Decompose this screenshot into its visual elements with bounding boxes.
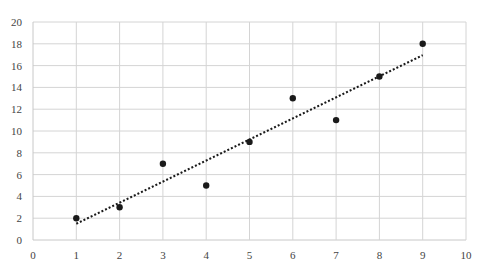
data-point	[203, 182, 209, 188]
y-tick-label: 20	[11, 16, 23, 28]
data-point	[246, 139, 252, 145]
x-tick-label: 7	[333, 249, 339, 261]
data-point	[73, 215, 79, 221]
data-point	[290, 95, 296, 101]
data-point	[376, 73, 382, 79]
y-tick-label: 16	[11, 60, 23, 72]
data-point	[160, 161, 166, 167]
data-point	[333, 117, 339, 123]
y-tick-label: 2	[17, 212, 23, 224]
x-tick-label: 2	[117, 249, 123, 261]
x-tick-label: 8	[377, 249, 383, 261]
y-axis-ticks: 02468101214161820	[11, 16, 23, 246]
scatter-chart: 02468101214161820 012345678910	[0, 0, 482, 273]
x-tick-label: 3	[160, 249, 166, 261]
x-tick-label: 5	[247, 249, 253, 261]
x-tick-label: 4	[203, 249, 209, 261]
x-tick-label: 10	[461, 249, 473, 261]
y-tick-label: 8	[17, 147, 23, 159]
y-tick-label: 6	[17, 169, 23, 181]
grid-lines	[33, 22, 466, 240]
y-tick-label: 18	[11, 38, 23, 50]
data-point	[420, 41, 426, 47]
y-tick-label: 0	[17, 234, 23, 246]
x-axis-ticks: 012345678910	[30, 249, 472, 261]
data-point	[116, 204, 122, 210]
x-tick-label: 0	[30, 249, 36, 261]
y-tick-label: 10	[11, 125, 23, 137]
y-tick-label: 4	[17, 190, 23, 202]
x-tick-label: 9	[420, 249, 426, 261]
x-tick-label: 1	[74, 249, 80, 261]
y-tick-label: 12	[11, 103, 22, 115]
y-tick-label: 14	[11, 81, 23, 93]
x-tick-label: 6	[290, 249, 296, 261]
